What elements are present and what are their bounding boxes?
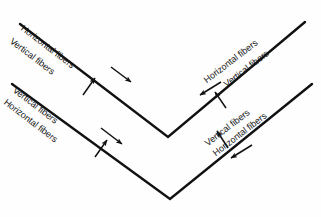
fiber-orientation-diagram: Horizontal fibers Vertical fibers Vertic… bbox=[0, 0, 321, 217]
up-arrow-icon bbox=[83, 78, 95, 95]
up-arrow-icon bbox=[215, 92, 226, 108]
up-arrow-icon bbox=[95, 140, 107, 157]
left-arrow-icon bbox=[231, 145, 252, 158]
right-arrow-icon bbox=[111, 67, 131, 82]
left-arrow-icon bbox=[200, 82, 221, 95]
right-arrow-icon bbox=[101, 128, 122, 144]
